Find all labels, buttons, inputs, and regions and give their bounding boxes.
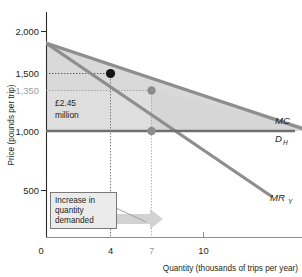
marker-point-a — [106, 69, 115, 78]
y-tick-label-1350: 1,350 — [16, 85, 39, 96]
x-tick-label-4: 4 — [108, 245, 113, 256]
curve-label-dh: D — [275, 133, 282, 144]
x-axis-title: Quantity (thousands of trips per year) — [163, 264, 298, 273]
x-tick-label-0: 0 — [38, 245, 43, 256]
y-tick-label-1500: 1,500 — [16, 68, 39, 79]
curve-label-dh-sub: H — [283, 139, 288, 146]
quantity-note-line3: demanded — [55, 216, 94, 225]
curve-label-mc: MC — [275, 115, 290, 126]
chart-container: MC D H MR Y 2,000 1,500 1,350 1,000 500 … — [0, 0, 302, 277]
economics-chart-svg: MC D H MR Y 2,000 1,500 1,350 1,000 500 … — [0, 0, 302, 277]
y-tick-label-1000: 1,000 — [16, 126, 39, 137]
curve-label-mry-sub: Y — [288, 198, 293, 205]
y-tick-label-2000: 2,000 — [16, 26, 39, 37]
area-value-label-line1: £2.45 — [55, 98, 76, 108]
y-axis-title: Price (pounds per trip) — [7, 84, 16, 165]
x-tick-label-7: 7 — [149, 245, 154, 256]
curve-label-mry: MR — [270, 192, 285, 203]
quantity-increase-arrow-icon — [113, 209, 163, 229]
marker-point-c — [147, 127, 155, 135]
marker-point-b — [147, 86, 155, 94]
x-tick-label-10: 10 — [198, 245, 208, 256]
area-value-label-line2: million — [55, 110, 79, 120]
quantity-note-line1: Increase in — [55, 196, 95, 205]
quantity-note-line2: quantity — [55, 206, 85, 215]
y-tick-label-500: 500 — [23, 185, 39, 196]
